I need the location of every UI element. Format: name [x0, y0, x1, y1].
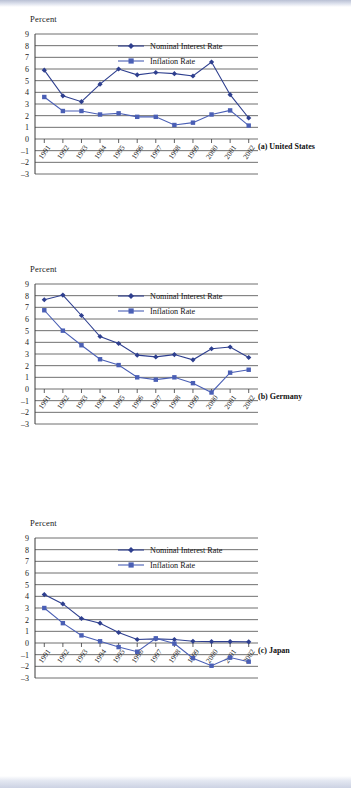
- x-tick-label: 1997: [148, 143, 164, 161]
- data-point-marker: [116, 341, 121, 346]
- x-tick-label: 2002: [241, 143, 257, 161]
- data-point-marker: [116, 363, 120, 367]
- legend-label-inflation: Inflation Rate: [150, 307, 196, 316]
- data-point-marker: [154, 115, 158, 119]
- data-point-marker: [228, 108, 232, 112]
- series-line-inflation: [44, 310, 248, 392]
- data-point-marker: [191, 656, 195, 660]
- data-point-marker: [247, 123, 251, 127]
- y-tick-label: 8: [25, 292, 29, 301]
- legend-marker-inflation: [129, 58, 134, 63]
- y-axis-title: Percent: [30, 264, 57, 274]
- x-tick-label: 1992: [55, 647, 71, 665]
- x-tick-label: 1997: [148, 393, 164, 411]
- x-tick-label: 2000: [204, 143, 220, 161]
- top-edge-band: [0, 0, 351, 7]
- data-point-marker: [228, 655, 232, 659]
- chart-svg-germany: 9876543210–1–2–3199119921993199419951996…: [0, 274, 270, 474]
- x-tick-label: 1991: [37, 143, 53, 161]
- data-point-marker: [116, 645, 120, 649]
- data-point-marker: [209, 112, 213, 116]
- data-point-marker: [153, 354, 158, 359]
- y-tick-label: 7: [25, 303, 29, 312]
- x-tick-label: 2002: [241, 393, 257, 411]
- data-point-marker: [135, 637, 140, 642]
- data-point-marker: [116, 630, 121, 635]
- y-tick-label: –1: [20, 651, 29, 660]
- legend-label-nominal: Nominal Interest Rate: [150, 42, 223, 51]
- legend-marker-nominal: [128, 43, 134, 49]
- legend-label-inflation: Inflation Rate: [150, 57, 196, 66]
- data-point-marker: [172, 352, 177, 357]
- y-tick-label: –2: [20, 408, 29, 417]
- y-tick-label: 7: [25, 557, 29, 566]
- y-tick-label: 8: [25, 42, 29, 51]
- data-point-marker: [135, 353, 140, 358]
- y-tick-label: 3: [25, 100, 29, 109]
- y-tick-label: 3: [25, 350, 29, 359]
- data-point-marker: [228, 639, 233, 644]
- x-tick-label: 1998: [167, 143, 183, 161]
- data-point-marker: [191, 120, 195, 124]
- chart-svg-japan: 9876543210–1–2–3199119921993199419951996…: [0, 528, 270, 728]
- chart-panel-japan: Percent 9876543210–1–2–31991199219931994…: [0, 516, 351, 772]
- data-point-marker: [135, 375, 139, 379]
- x-tick-label: 1996: [129, 393, 145, 411]
- y-axis-title: Percent: [30, 14, 57, 24]
- data-point-marker: [61, 621, 65, 625]
- y-axis-title: Percent: [30, 518, 57, 528]
- data-point-marker: [42, 606, 46, 610]
- x-tick-label: 1993: [74, 393, 90, 411]
- x-tick-label: 1999: [185, 143, 201, 161]
- y-tick-label: –1: [20, 397, 29, 406]
- y-tick-label: 4: [25, 88, 29, 97]
- y-tick-label: 6: [25, 65, 29, 74]
- x-tick-label: 2000: [204, 647, 220, 665]
- y-tick-label: 6: [25, 315, 29, 324]
- data-point-marker: [209, 664, 213, 668]
- y-tick-label: 4: [25, 338, 29, 347]
- x-tick-label: 1995: [111, 143, 127, 161]
- x-tick-label: 2001: [222, 143, 238, 161]
- y-tick-label: 9: [25, 534, 29, 543]
- y-tick-label: –1: [20, 147, 29, 156]
- data-point-marker: [116, 111, 120, 115]
- data-point-marker: [42, 95, 46, 99]
- x-tick-label: 1993: [74, 647, 90, 665]
- x-tick-label: 1998: [167, 647, 183, 665]
- chart-panel-united-states: Percent 9876543210–1–2–31991199219931994…: [0, 12, 351, 260]
- y-tick-label: 5: [25, 581, 29, 590]
- y-tick-label: 9: [25, 30, 29, 39]
- legend-marker-inflation: [129, 308, 134, 313]
- x-tick-label: 1991: [37, 393, 53, 411]
- y-tick-label: 1: [25, 123, 29, 132]
- data-point-marker: [247, 368, 251, 372]
- data-point-marker: [172, 375, 176, 379]
- chart-svg-united-states: 9876543210–1–2–3199119921993199419951996…: [0, 24, 270, 224]
- data-point-marker: [154, 377, 158, 381]
- plot-area-japan: 9876543210–1–2–3199119921993199419951996…: [0, 528, 270, 728]
- plot-area-united-states: 9876543210–1–2–3199119921993199419951996…: [0, 24, 270, 224]
- bottom-edge-band: [0, 776, 351, 788]
- y-tick-label: –2: [20, 662, 29, 671]
- data-point-marker: [98, 112, 102, 116]
- y-tick-label: 1: [25, 627, 29, 636]
- x-tick-label: 1994: [92, 647, 108, 665]
- x-tick-label: 1992: [55, 143, 71, 161]
- data-point-marker: [209, 346, 214, 351]
- series-line-nominal: [44, 62, 248, 118]
- y-tick-label: 3: [25, 604, 29, 613]
- y-tick-label: 2: [25, 616, 29, 625]
- y-tick-label: 5: [25, 327, 29, 336]
- y-tick-label: 1: [25, 373, 29, 382]
- x-tick-label: 1995: [111, 647, 127, 665]
- panel-label-japan: (c) Japan: [258, 646, 290, 655]
- y-tick-label: –3: [20, 420, 29, 429]
- y-tick-label: –3: [20, 170, 29, 179]
- y-tick-label: 4: [25, 592, 29, 601]
- y-tick-label: 9: [25, 280, 29, 289]
- data-point-marker: [79, 633, 83, 637]
- legend-label-nominal: Nominal Interest Rate: [150, 292, 223, 301]
- series-line-nominal: [44, 295, 248, 360]
- legend-marker-inflation: [129, 562, 134, 567]
